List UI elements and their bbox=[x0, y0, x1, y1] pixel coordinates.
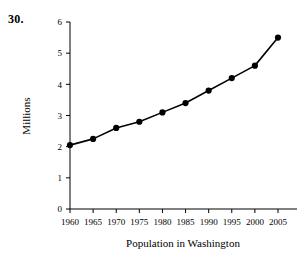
x-axis-tick-label: 1975 bbox=[130, 217, 149, 227]
x-axis-tick-label: 1965 bbox=[84, 217, 103, 227]
y-axis-tick-label: 0 bbox=[58, 204, 63, 214]
y-axis-tick-label: 6 bbox=[58, 17, 63, 27]
y-axis-tick-label: 1 bbox=[58, 173, 63, 183]
data-point-marker bbox=[67, 142, 73, 148]
x-axis-tick-label: 2000 bbox=[246, 217, 265, 227]
data-marker-group bbox=[67, 34, 281, 148]
x-axis-tick-label: 2005 bbox=[269, 217, 288, 227]
y-axis-tick-label: 3 bbox=[58, 111, 63, 121]
x-axis-tick-label: 1960 bbox=[61, 217, 80, 227]
x-axis-title: Population in Washington bbox=[126, 237, 240, 249]
y-axis-tick-label: 5 bbox=[58, 48, 63, 58]
x-axis-tick-label: 1985 bbox=[177, 217, 196, 227]
data-point-marker bbox=[136, 119, 142, 125]
data-point-marker bbox=[182, 100, 188, 106]
y-axis-tick-label: 4 bbox=[58, 80, 63, 90]
data-point-marker bbox=[206, 87, 212, 93]
y-axis-title: Millions bbox=[20, 97, 32, 134]
x-axis-tick-label: 1995 bbox=[223, 217, 242, 227]
data-point-marker bbox=[90, 136, 96, 142]
x-axis-tick-label: 1990 bbox=[200, 217, 219, 227]
data-point-marker bbox=[159, 109, 165, 115]
data-point-marker bbox=[275, 34, 281, 40]
data-point-marker bbox=[252, 63, 258, 69]
data-line bbox=[70, 38, 278, 146]
line-chart-svg: 0123456 19601965197019751980198519901995… bbox=[0, 0, 304, 259]
x-axis-tick-group: 1960196519701975198019851990199520002005 bbox=[61, 209, 288, 227]
x-axis-tick-label: 1980 bbox=[153, 217, 172, 227]
y-axis-tick-label: 2 bbox=[58, 142, 63, 152]
y-axis-tick-group: 0123456 bbox=[58, 17, 71, 214]
data-point-marker bbox=[229, 75, 235, 81]
chart-plot-area: 0123456 19601965197019751980198519901995… bbox=[0, 0, 304, 259]
data-point-marker bbox=[113, 125, 119, 131]
x-axis-tick-label: 1970 bbox=[107, 217, 126, 227]
figure-container: 30. 0123456 1960196519701975198019851990… bbox=[0, 0, 304, 259]
